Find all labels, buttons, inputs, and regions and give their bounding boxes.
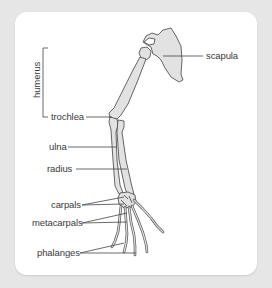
label-humerus: humerus xyxy=(32,62,42,98)
label-trochlea: trochlea xyxy=(51,112,84,122)
humerus-bone xyxy=(109,57,146,119)
label-ulna: ulna xyxy=(49,142,67,152)
label-scapula: scapula xyxy=(206,51,238,61)
label-radius: radius xyxy=(47,164,72,174)
arm-skeleton-illustration xyxy=(0,0,272,288)
label-phalanges: phalanges xyxy=(37,248,80,258)
label-metacarpals: metacarpals xyxy=(32,218,83,228)
label-carpals: carpals xyxy=(51,200,81,210)
